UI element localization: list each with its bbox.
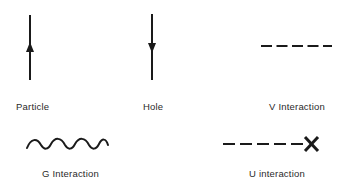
particle-label: Particle — [16, 101, 49, 112]
v-interaction-label: V Interaction — [269, 101, 325, 112]
u-interaction-label: U interaction — [249, 168, 305, 179]
hole-arrow-icon — [148, 14, 156, 80]
u-interaction-dashed-x-icon — [223, 137, 318, 151]
g-interaction-wavy-line-icon — [27, 139, 108, 149]
g-interaction-label: G Interaction — [42, 168, 99, 179]
diagram-symbols — [0, 0, 349, 187]
hole-label: Hole — [143, 101, 163, 112]
feynman-legend-diagram: Particle Hole V Interaction G Interactio… — [0, 0, 349, 187]
particle-arrow-icon — [26, 15, 34, 80]
